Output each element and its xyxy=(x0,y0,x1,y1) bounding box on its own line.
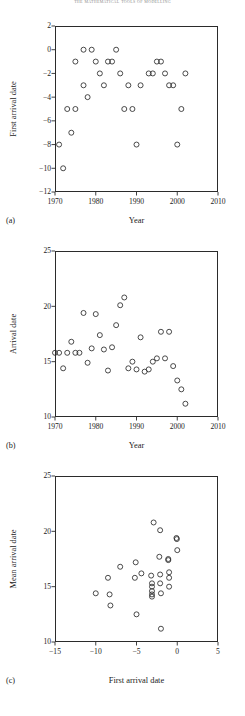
data-point xyxy=(175,142,180,147)
data-point xyxy=(126,83,131,88)
x-tick-label: −5 xyxy=(121,647,153,656)
data-point xyxy=(146,367,151,372)
data-point xyxy=(134,142,139,147)
data-point xyxy=(122,107,127,112)
panel-a: 20−2−4−6−8−10−1219701980199020002010Year… xyxy=(0,10,245,232)
y-tick-label: −10 xyxy=(25,164,51,173)
x-tick-label: 1970 xyxy=(39,197,71,206)
data-point xyxy=(81,47,86,52)
x-axis-title-c: First arrival date xyxy=(55,676,218,685)
data-point xyxy=(89,47,94,52)
data-point xyxy=(154,356,159,361)
data-point xyxy=(134,612,139,617)
data-point xyxy=(85,95,90,100)
y-tick-label: −12 xyxy=(25,187,51,196)
data-point xyxy=(73,59,78,64)
y-tick-label: −4 xyxy=(25,93,51,102)
y-tick-label: 10 xyxy=(25,637,51,646)
data-point xyxy=(65,107,70,112)
data-point xyxy=(61,166,66,171)
data-point xyxy=(158,591,163,596)
figure-page: the mathematical tools of modelling 20−2… xyxy=(0,0,245,716)
panel-c: 25201510−15−10−505First arrival dateMean… xyxy=(0,460,245,716)
x-tick-label: 2010 xyxy=(202,422,234,431)
data-point xyxy=(158,581,163,586)
data-point xyxy=(175,378,180,383)
y-tick-label: 25 xyxy=(25,246,51,255)
data-point xyxy=(97,333,102,338)
x-tick-label: 2010 xyxy=(202,197,234,206)
y-tick-label: 2 xyxy=(25,21,51,30)
data-point xyxy=(65,350,70,355)
data-point xyxy=(157,554,162,559)
y-axis-title-c: Mean arrival date xyxy=(9,529,18,588)
data-point xyxy=(97,71,102,76)
x-tick-label: 1990 xyxy=(121,197,153,206)
y-tick-label: 25 xyxy=(25,471,51,480)
x-tick-label: 2000 xyxy=(161,197,193,206)
data-point xyxy=(132,575,137,580)
data-point xyxy=(179,387,184,392)
panel-letter-b: (b) xyxy=(6,441,16,450)
data-point xyxy=(158,626,163,631)
x-tick-label: 1980 xyxy=(80,197,112,206)
data-point xyxy=(118,564,123,569)
x-tick-label: 1970 xyxy=(39,422,71,431)
y-tick-label: 15 xyxy=(25,357,51,366)
data-point xyxy=(81,83,86,88)
data-point xyxy=(57,142,62,147)
data-point xyxy=(179,107,184,112)
data-point xyxy=(110,345,115,350)
data-point xyxy=(93,312,98,317)
y-tick-label: 20 xyxy=(25,527,51,536)
x-axis-title-a: Year xyxy=(55,216,218,225)
data-point xyxy=(167,575,172,580)
x-axis-title-b: Year xyxy=(55,441,218,450)
data-point xyxy=(118,71,123,76)
data-point xyxy=(163,71,168,76)
data-point xyxy=(158,329,163,334)
data-point xyxy=(61,366,66,371)
y-tick-label: 20 xyxy=(25,302,51,311)
data-point xyxy=(138,83,143,88)
data-point xyxy=(105,368,110,373)
panel-letter-a: (a) xyxy=(6,216,15,225)
data-point xyxy=(114,47,119,52)
panel-letter-c: (c) xyxy=(6,676,15,685)
data-point xyxy=(126,366,131,371)
y-tick-label: −8 xyxy=(25,140,51,149)
y-axis-title-b: Arrival date xyxy=(9,314,18,354)
data-point xyxy=(163,356,168,361)
data-point xyxy=(158,528,163,533)
data-point xyxy=(151,520,156,525)
y-tick-label: −6 xyxy=(25,116,51,125)
data-point xyxy=(101,83,106,88)
data-point xyxy=(118,303,123,308)
x-tick-label: 0 xyxy=(161,647,193,656)
x-tick-label: 2000 xyxy=(161,422,193,431)
running-head: the mathematical tools of modelling xyxy=(0,0,245,5)
data-point xyxy=(133,560,138,565)
data-point xyxy=(167,584,172,589)
data-point xyxy=(69,130,74,135)
data-point xyxy=(175,548,180,553)
y-tick-label: 15 xyxy=(25,582,51,591)
data-point xyxy=(93,59,98,64)
y-tick-label: 10 xyxy=(25,412,51,421)
data-point xyxy=(139,571,144,576)
data-point xyxy=(158,572,163,577)
data-point xyxy=(130,359,135,364)
panel-b: 2520151019701980199020002010YearArrival … xyxy=(0,235,245,457)
data-point xyxy=(183,401,188,406)
data-point xyxy=(171,364,176,369)
data-point xyxy=(183,71,188,76)
data-point xyxy=(89,346,94,351)
data-point xyxy=(149,573,154,578)
data-point xyxy=(130,107,135,112)
data-point xyxy=(73,107,78,112)
data-point xyxy=(108,603,113,608)
x-tick-label: 1980 xyxy=(80,422,112,431)
x-tick-label: 1990 xyxy=(121,422,153,431)
data-point xyxy=(105,575,110,580)
x-tick-label: −10 xyxy=(80,647,112,656)
